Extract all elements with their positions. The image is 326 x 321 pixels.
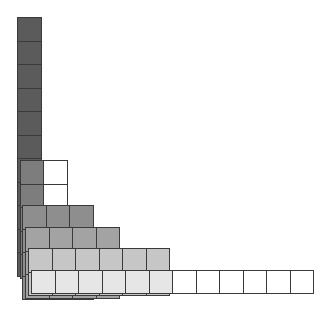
cell <box>17 64 42 89</box>
cell <box>125 270 150 295</box>
cell <box>266 270 291 295</box>
cell <box>31 270 56 295</box>
cell <box>20 160 45 185</box>
cell <box>55 270 80 295</box>
cell <box>102 270 127 295</box>
cell <box>43 160 68 185</box>
cell <box>69 205 94 230</box>
cell <box>17 17 42 42</box>
cell <box>172 270 197 295</box>
cell <box>17 111 42 136</box>
cell <box>149 270 174 295</box>
cell <box>290 270 315 295</box>
cell <box>46 205 71 230</box>
cell <box>17 135 42 160</box>
cell <box>17 41 42 66</box>
cell <box>78 270 103 295</box>
cell <box>22 205 47 230</box>
cell <box>219 270 244 295</box>
cell <box>196 270 221 295</box>
cell <box>17 88 42 113</box>
cell <box>243 270 268 295</box>
